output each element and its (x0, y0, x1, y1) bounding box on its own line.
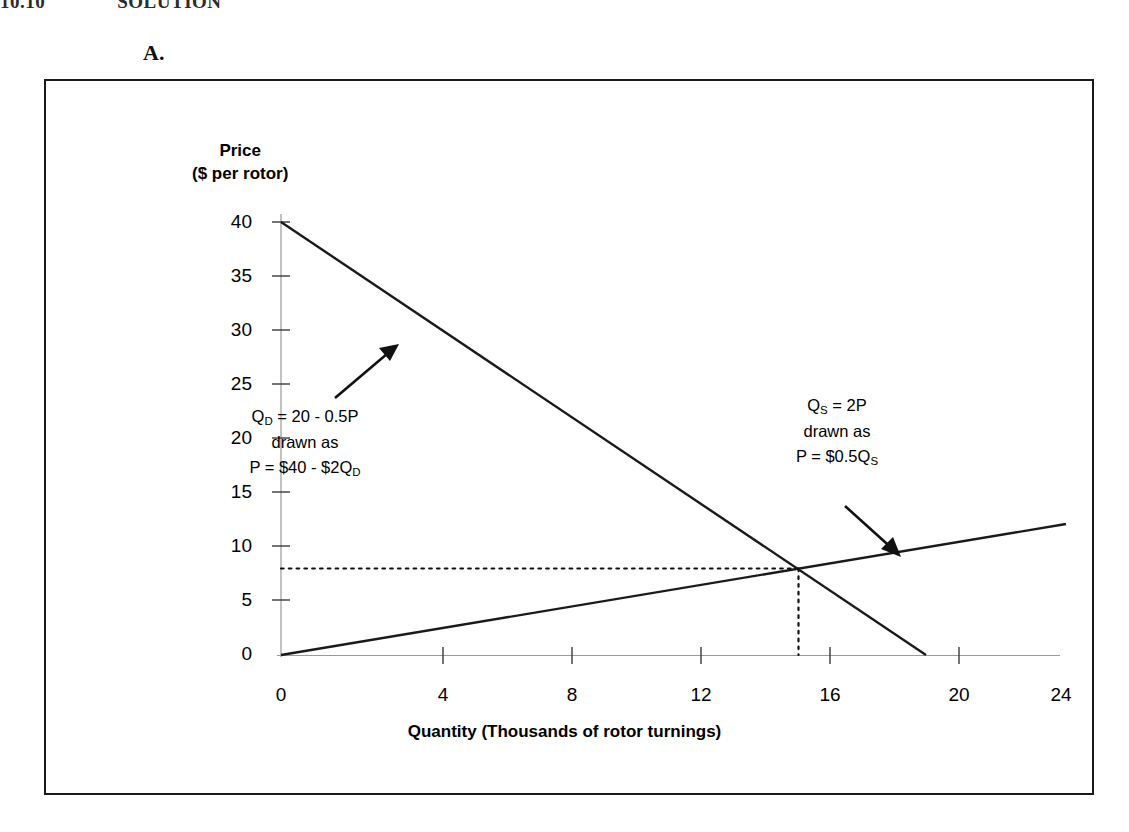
supply-inv-eq: P = $0.5Q (796, 447, 870, 465)
demand-annotation-line2: drawn as (183, 430, 427, 456)
demand-annotation-line1: QD = 20 - 0.5P (183, 404, 427, 430)
supply-inv-sub: S (870, 455, 878, 467)
y-tick-label-15: 15 (218, 481, 252, 503)
y-tick-label-40: 40 (218, 211, 252, 233)
demand-eq-sub: D (264, 415, 272, 427)
x-tick-label-12: 12 (681, 684, 721, 706)
y-tick-label-0: 0 (218, 643, 252, 665)
x-tick-label-8: 8 (552, 684, 592, 706)
supply-eq-rest: = 2P (828, 396, 867, 414)
demand-annotation-line3: P = $40 - $2QD (183, 455, 427, 481)
supply-annotation-line2: drawn as (742, 419, 932, 445)
supply-eq-sub: S (820, 404, 828, 416)
y-tick-label-25: 25 (218, 373, 252, 395)
running-header-left: 10.10 (0, 0, 45, 11)
x-tick-label-16: 16 (810, 684, 850, 706)
x-tick-label-24: 24 (1041, 684, 1081, 706)
demand-inv-eq: P = $40 - $2Q (249, 458, 352, 476)
x-axis-title: Quantity (Thousands of rotor turnings) (0, 722, 1129, 742)
running-header: 10.10SOLUTION (0, 0, 420, 11)
y-tick-label-10: 10 (218, 535, 252, 557)
y-axis-title-line2: ($ per rotor) (192, 163, 288, 186)
supply-annotation: QS = 2P drawn as P = $0.5QS (742, 393, 932, 470)
demand-annotation: QD = 20 - 0.5P drawn as P = $40 - $2QD (183, 404, 427, 481)
demand-inv-sub: D (352, 466, 360, 478)
supply-annotation-line1: QS = 2P (742, 393, 932, 419)
y-tick-label-30: 30 (218, 319, 252, 341)
x-tick-label-20: 20 (939, 684, 979, 706)
panel-letter: A. (143, 40, 164, 66)
x-tick-label-0: 0 (261, 684, 301, 706)
x-tick-label-4: 4 (423, 684, 463, 706)
running-header-right: SOLUTION (117, 0, 221, 11)
supply-annotation-line3: P = $0.5QS (742, 444, 932, 470)
y-axis-title: Price ($ per rotor) (192, 140, 288, 186)
y-tick-label-35: 35 (218, 265, 252, 287)
supply-eq-q: Q (807, 396, 820, 414)
demand-eq-q: Q (252, 407, 265, 425)
demand-eq-rest: = 20 - 0.5P (273, 407, 359, 425)
y-tick-label-5: 5 (218, 589, 252, 611)
y-axis-title-line1: Price (192, 140, 288, 163)
